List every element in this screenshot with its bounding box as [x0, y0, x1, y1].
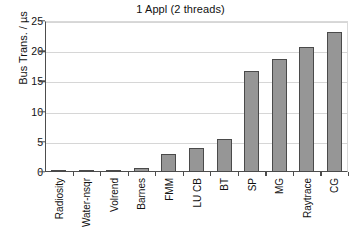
- chart-title: 1 Appl (2 threads): [0, 3, 361, 15]
- x-tick-label: FMM: [162, 178, 176, 232]
- x-tick-label: SP: [245, 178, 259, 232]
- x-tick-label-text: BT: [219, 178, 230, 191]
- bar: [272, 59, 287, 172]
- x-tick-label-text: Radiosity: [53, 178, 64, 219]
- x-tick-label-text: Volrend: [108, 178, 119, 212]
- x-tick-mark: [265, 172, 266, 176]
- bar: [106, 170, 121, 173]
- x-tick-label-text: LU CB: [191, 178, 202, 207]
- x-tick-mark: [238, 172, 239, 176]
- x-tick-label-text: MG: [274, 178, 285, 194]
- bar: [217, 139, 232, 172]
- x-tick-label-text: Barnes: [136, 178, 147, 210]
- bar: [161, 154, 176, 172]
- bar-chart-figure: 1 Appl (2 threads) Bus Trans. / µs 05101…: [0, 0, 361, 233]
- x-tick-mark: [73, 172, 74, 176]
- x-tick-mark: [128, 172, 129, 176]
- bar: [327, 32, 342, 172]
- x-tick-label-text: Water-nsqr: [81, 178, 92, 227]
- x-tick-mark: [293, 172, 294, 176]
- x-tick-label: MG: [272, 178, 286, 232]
- bar: [79, 170, 94, 173]
- x-tick-mark: [183, 172, 184, 176]
- x-tick-label-text: FMM: [163, 178, 174, 201]
- x-tick-label: Radiosity: [52, 178, 66, 232]
- bar: [299, 47, 314, 172]
- x-tick-mark: [320, 172, 321, 176]
- x-tick-label-text: Raytrace: [301, 178, 312, 218]
- x-tick-label: Water-nsqr: [79, 178, 93, 232]
- bar: [134, 168, 149, 172]
- x-tick-mark: [210, 172, 211, 176]
- bar: [51, 170, 66, 173]
- x-tick-label: CG: [327, 178, 341, 232]
- x-tick-mark: [348, 172, 349, 176]
- x-tick-label: BT: [217, 178, 231, 232]
- bar: [189, 148, 204, 172]
- x-tick-label: LU CB: [190, 178, 204, 232]
- x-tick-label: Raytrace: [300, 178, 314, 232]
- bar-series: [45, 21, 348, 172]
- x-tick-mark: [100, 172, 101, 176]
- x-tick-label: Volrend: [107, 178, 121, 232]
- x-tick-label-text: SP: [246, 178, 257, 191]
- x-tick-label-text: CG: [329, 178, 340, 193]
- x-tick-mark: [155, 172, 156, 176]
- bar: [244, 71, 259, 172]
- x-tick-label: Barnes: [134, 178, 148, 232]
